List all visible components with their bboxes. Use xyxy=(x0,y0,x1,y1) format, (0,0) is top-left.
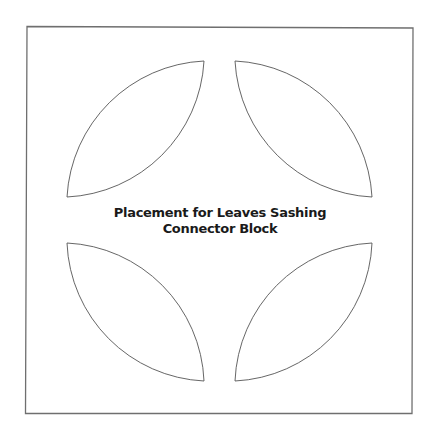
leaf-bottom-right xyxy=(235,243,372,381)
diagram-title-line-2: Connector Block xyxy=(0,221,440,237)
leaf-top-right xyxy=(235,61,372,197)
diagram-title-line-1: Placement for Leaves Sashing xyxy=(0,205,440,221)
leaf-bottom-left xyxy=(67,243,204,381)
leaf-top-left xyxy=(67,61,204,197)
